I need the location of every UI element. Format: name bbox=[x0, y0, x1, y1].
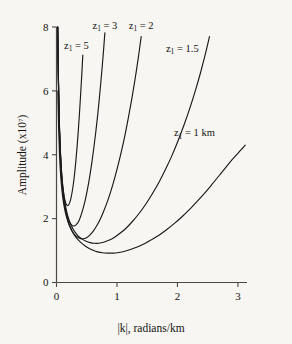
y-axis-title-main: Amplitude (x10 bbox=[16, 122, 29, 195]
curve-label-value: = 1 km bbox=[182, 127, 214, 138]
x-axis-title: |k|, radians/km bbox=[117, 322, 184, 335]
chart-figure: 02468 0123 z1 = 5z1 = 3z1 = 2z1 = 1.5z1 … bbox=[0, 0, 292, 344]
x-tick-label: 2 bbox=[175, 290, 181, 302]
y-tick-label: 8 bbox=[43, 21, 49, 33]
y-tick-label: 6 bbox=[43, 85, 49, 97]
x-tick-label: 3 bbox=[235, 290, 241, 302]
y-tick-label: 2 bbox=[43, 212, 49, 224]
x-tick-label: 1 bbox=[114, 290, 120, 302]
y-axis-title: Amplitude (x107) bbox=[16, 115, 29, 196]
y-axis-title-suffix: ) bbox=[16, 115, 29, 119]
amplitude-vs-wavenumber-chart: 02468 0123 z1 = 5z1 = 3z1 = 2z1 = 1.5z1 … bbox=[0, 0, 292, 344]
y-tick-label: 0 bbox=[43, 276, 49, 288]
curve-label-value: = 1.5 bbox=[174, 43, 198, 54]
chart-background bbox=[0, 0, 292, 344]
curve-label-value: = 5 bbox=[72, 40, 88, 51]
curve-label-value: = 2 bbox=[137, 20, 153, 31]
x-tick-label: 0 bbox=[54, 290, 60, 302]
curve-label-value: = 3 bbox=[101, 20, 117, 31]
y-tick-label: 4 bbox=[43, 149, 49, 161]
